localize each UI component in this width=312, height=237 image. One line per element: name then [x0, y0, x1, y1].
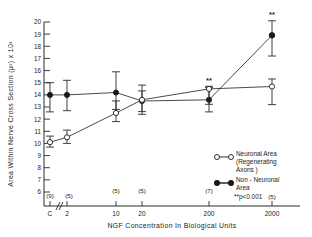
- legend-label-line1: Non - Neuronal: [236, 176, 279, 183]
- y-tick-label: 14: [34, 91, 42, 98]
- legend-label-line1: Neuronal Area: [236, 150, 277, 157]
- sample-size-label: (5): [268, 193, 276, 200]
- sample-size-label: (5): [112, 187, 120, 194]
- legend-entry-neuronal[interactable]: Neuronal Area (Regenerating Axons ): [215, 150, 278, 174]
- y-tick-label: 17: [34, 55, 42, 62]
- legend-label-line3: Axons ): [236, 166, 258, 174]
- sample-size-label: (7): [205, 187, 213, 194]
- legend-marker-filled-circle: [228, 180, 233, 185]
- y-tick-label: 8: [37, 164, 41, 171]
- data-point-group: [63, 130, 71, 143]
- sample-size-label: (5): [65, 192, 73, 199]
- figure-container: 20 19 18 17 16 15 14 13 12 11 10 9 8 7 6…: [0, 0, 312, 237]
- significance-marker: **: [206, 76, 212, 85]
- x-tick-label: 10: [112, 210, 120, 217]
- legend-label-line2: (Regenerating: [236, 158, 277, 166]
- x-tick-label: 2000: [265, 210, 280, 217]
- y-axis-tick-labels: 20 19 18 17 16 15 14 13 12 11 10 9 8 7 6: [34, 18, 42, 195]
- y-tick-label: 11: [34, 128, 41, 135]
- y-tick-label: 15: [34, 79, 42, 86]
- y-tick-label: 7: [37, 176, 41, 183]
- data-point-group: [63, 80, 71, 110]
- legend-marker-open-circle: [229, 155, 234, 160]
- significance-markers: ** **: [206, 10, 275, 85]
- y-tick-label: 9: [37, 152, 41, 159]
- data-point-group: [46, 83, 54, 112]
- y-tick-label: 13: [34, 103, 42, 110]
- data-point-group: [205, 86, 213, 104]
- series-line-non-neuronal-actual: [50, 35, 272, 101]
- chart-canvas: 20 19 18 17 16 15 14 13 12 11 10 9 8 7 6…: [0, 0, 312, 237]
- series-line-neuronal: [50, 87, 272, 143]
- legend-label-line2: Area: [236, 184, 250, 191]
- series-points-neuronal: [46, 79, 276, 147]
- x-tick-label: C: [48, 210, 53, 217]
- y-tick-label: 20: [34, 18, 42, 25]
- legend-entry-non-neuronal[interactable]: Non - Neuronal Area: [214, 176, 279, 191]
- x-tick-label: 20: [138, 210, 146, 217]
- y-tick-label: 6: [37, 188, 41, 195]
- significance-marker: **: [269, 10, 275, 19]
- y-tick-label: 19: [34, 31, 42, 38]
- y-tick-label: 16: [34, 67, 42, 74]
- sample-size-label: (9): [46, 192, 54, 199]
- y-axis-title: Area Within Nerve Cross Section (μ²) x 1…: [7, 41, 15, 187]
- legend-significance-note: **p<0.001: [234, 193, 263, 201]
- legend-marker-filled-circle: [214, 180, 219, 185]
- y-tick-label: 18: [34, 43, 42, 50]
- y-tick-label: 10: [34, 140, 42, 147]
- y-tick-label: 12: [34, 116, 42, 123]
- x-axis-tick-labels: C 2 10 20 200 2000: [48, 210, 280, 217]
- x-axis-ticks: [50, 201, 272, 206]
- legend-marker-open-circle: [215, 155, 220, 160]
- x-axis-title: NGF Concentration In Biological Units: [108, 222, 237, 230]
- y-axis-ticks: [44, 22, 50, 192]
- x-tick-label: 200: [203, 210, 214, 217]
- sample-size-label: (5): [138, 187, 146, 194]
- x-tick-label: 2: [65, 210, 69, 217]
- data-point-group: [268, 79, 276, 105]
- data-point-group: [46, 136, 54, 147]
